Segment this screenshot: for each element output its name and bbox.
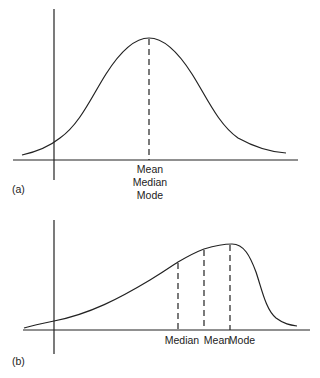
panel-b-caption: (b) [12,355,25,367]
panel-b-label-mean: Mean [204,334,230,346]
panel-b-skewed-curve [24,244,297,328]
panel-a-caption: (a) [12,183,25,195]
panel-a-symmetric-curve [22,38,286,155]
panel-a-label-median: Median [133,176,167,188]
panel-a-label-mode: Mode [137,189,163,201]
panel-a-label-mean: Mean [137,163,163,175]
panel-a-graph [13,9,298,180]
panel-b-label-mode: Mode [229,334,255,346]
panel-b-label-median: Median [165,334,199,346]
